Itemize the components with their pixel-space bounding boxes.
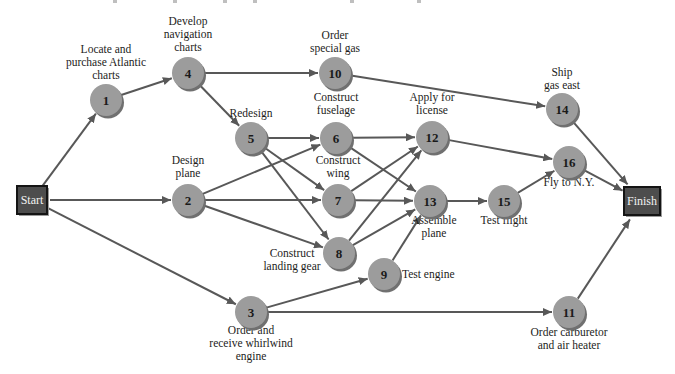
edge-7-12 [351,146,418,191]
cropped-caption-fragment [253,0,257,3]
activity-label-5: Redesign [230,107,273,120]
activity-label-1: Locate andpurchase Atlanticcharts [66,43,146,81]
node-number: 8 [336,246,343,261]
activity-label-2: Designplane [172,154,205,180]
activity-node-10: 10 [319,57,353,92]
edge-1-4 [121,78,172,95]
node-number: 9 [381,267,388,282]
edge-11-finish [578,219,630,298]
node-number: 13 [424,194,438,209]
terminal-label: Start [21,193,44,207]
activity-node-14: 14 [546,93,580,128]
start-terminal: Start [17,186,49,216]
cropped-caption-fragment [223,0,227,3]
node-number: 10 [329,66,342,81]
node-number: 15 [498,194,512,209]
cropped-caption-fragment [417,0,421,3]
node-number: 6 [333,131,340,146]
activity-label-4: Developnavigationcharts [164,15,213,53]
edge-start-1 [43,114,96,186]
cropped-caption-fragment [350,0,354,3]
activity-node-7: 7 [322,184,356,219]
edge-start-3 [48,208,236,304]
finish-terminal: Finish [624,187,662,217]
activity-node-4: 4 [172,57,206,92]
activity-node-2: 2 [172,184,206,219]
activity-node-6: 6 [320,122,354,157]
activity-label-10: Orderspecial gas [310,29,361,55]
activity-label-6: Constructfuselage [314,91,360,117]
edge-7-13 [354,200,413,201]
edge-3-9 [266,279,367,308]
edge-12-16 [448,140,553,159]
node-number: 14 [556,102,570,117]
activity-node-9: 9 [368,258,402,293]
node-number: 5 [248,131,255,146]
activity-label-8: Constructlanding gear [263,247,320,273]
activity-node-8: 8 [323,237,357,272]
edge-6-12 [352,137,415,138]
activity-label-14: Shipgas east [544,66,581,92]
cropped-caption-fragment [113,0,117,3]
node-number: 1 [103,93,110,108]
activity-label-9: Test engine [402,268,455,281]
node-number: 16 [563,155,577,170]
node-number: 4 [185,66,192,81]
cropped-caption-fragment [173,0,177,3]
network-svg: Locate andpurchase AtlanticchartsDevelop… [0,0,675,374]
edge-4-5 [199,84,239,125]
node-number: 2 [185,193,192,208]
edge-2-8 [203,205,323,247]
project-network-diagram: Locate andpurchase AtlanticchartsDevelop… [0,0,675,374]
node-number: 3 [248,305,255,320]
activity-label-7: Constructwing [316,154,362,180]
node-number: 11 [563,305,575,320]
activity-node-5: 5 [235,122,269,157]
terminal-label: Finish [627,194,657,208]
node-number: 12 [426,130,439,145]
activity-label-12: Apply forlicense [409,91,454,116]
node-number: 7 [335,193,342,208]
